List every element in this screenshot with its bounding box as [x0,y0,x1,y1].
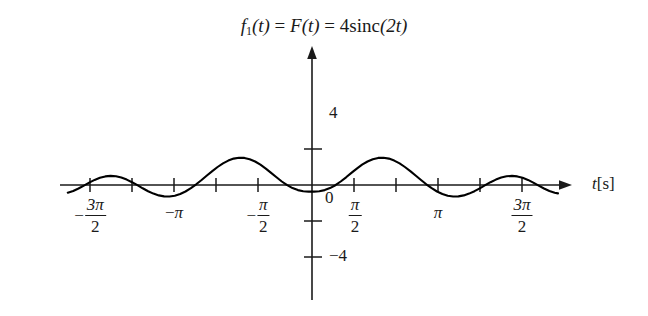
x-tick-3pi-2-numerator: 3π [511,196,532,215]
x-axis-unit: [s] [597,174,615,193]
y-tick-label-neg-4: −4 [329,247,347,264]
x-tick-label-zero: 0 [325,189,334,206]
fraction-bar [257,215,270,216]
x-tick-neg-pi-body: π [175,203,184,222]
plot-area [0,0,648,316]
x-tick-pi-body: π [434,203,443,222]
y-tick-4-text: 4 [329,103,338,122]
x-tick-label-pi: π [434,204,443,221]
figure-canvas: f1(t) = F(t) = 4sinc(2t) [0,0,648,316]
x-tick-neg-pi-2-denominator: 2 [257,217,270,236]
minus-sign: − [74,207,84,224]
x-tick-label-neg-pi-over-2: − π 2 [246,196,269,236]
x-axis-title: t[s] [592,175,615,192]
x-tick-label-3pi-over-2: 3π 2 [511,196,532,236]
minus-sign: − [246,207,256,224]
fraction-bar [511,215,532,216]
x-tick-label-pi-over-2: π 2 [349,196,362,236]
fraction-bar [349,215,362,216]
x-tick-label-neg-pi: −π [165,204,183,221]
y-tick-label-4: 4 [329,104,338,121]
y-tick-neg-4-text: −4 [329,246,347,265]
x-tick-pi-2-numerator: π [349,196,362,215]
fraction-bar [85,215,106,216]
x-tick-neg-3pi-2-numerator: 3π [85,196,106,215]
x-tick-label-neg-3pi-over-2: − 3π 2 [74,196,106,236]
y-axis-ticks [304,149,322,257]
origin-zero-text: 0 [325,188,334,207]
x-tick-neg-pi-2-numerator: π [257,196,270,215]
x-tick-neg-3pi-2-denominator: 2 [85,217,106,236]
x-tick-3pi-2-denominator: 2 [511,217,532,236]
x-tick-pi-2-denominator: 2 [349,217,362,236]
y-axis [307,46,317,300]
sinc-curve [68,158,558,197]
y-axis-arrow-icon [307,46,317,59]
x-tick-neg-pi-sign: − [165,203,175,222]
x-axis-arrow-icon [559,180,572,190]
